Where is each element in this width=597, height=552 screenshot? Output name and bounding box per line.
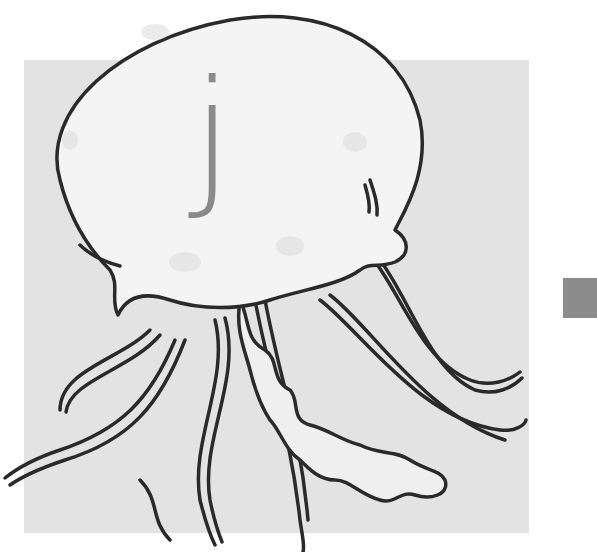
jellyfish-illustration bbox=[0, 0, 597, 552]
letter-label: j bbox=[172, 60, 252, 210]
